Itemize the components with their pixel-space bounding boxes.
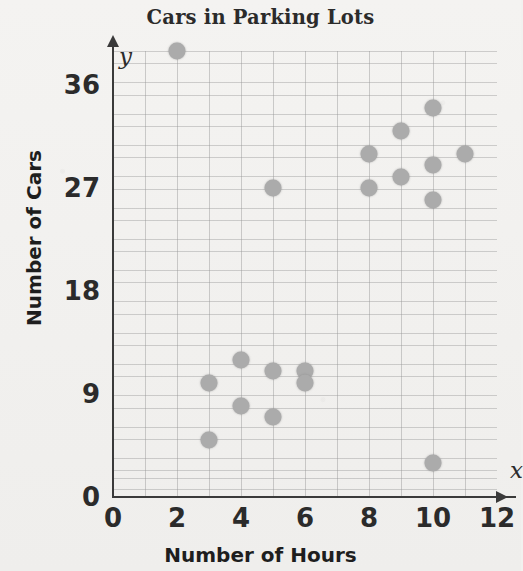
data-point bbox=[201, 374, 218, 391]
data-point bbox=[425, 100, 442, 117]
grid-lines bbox=[113, 51, 497, 497]
y-axis-tick-labels: 09182736 bbox=[0, 51, 100, 497]
x-axis-variable-label: x bbox=[510, 457, 523, 483]
x-tick-label-2: 2 bbox=[168, 503, 186, 533]
data-point bbox=[361, 145, 378, 162]
x-axis-tick-labels: 024681012 bbox=[113, 503, 497, 543]
y-tick-label-27: 27 bbox=[64, 173, 100, 203]
plot-area: y x bbox=[113, 51, 497, 497]
data-point bbox=[393, 168, 410, 185]
x-axis-arrow-icon bbox=[496, 491, 508, 503]
data-point bbox=[233, 397, 250, 414]
y-axis-line bbox=[112, 45, 114, 498]
x-tick-label-12: 12 bbox=[479, 503, 515, 533]
data-point bbox=[425, 157, 442, 174]
data-point bbox=[265, 180, 282, 197]
y-tick-label-18: 18 bbox=[64, 276, 100, 306]
data-point bbox=[169, 43, 186, 60]
data-point bbox=[425, 454, 442, 471]
x-tick-label-10: 10 bbox=[415, 503, 451, 533]
data-point bbox=[361, 180, 378, 197]
y-axis-variable-label: y bbox=[119, 43, 132, 69]
data-point bbox=[233, 351, 250, 368]
data-point bbox=[393, 123, 410, 140]
chart-title: Cars in Parking Lots bbox=[0, 6, 521, 29]
data-point bbox=[201, 431, 218, 448]
x-axis-line bbox=[112, 496, 516, 498]
data-point bbox=[425, 191, 442, 208]
y-tick-label-0: 0 bbox=[82, 482, 100, 512]
data-point bbox=[265, 363, 282, 380]
x-axis-title: Number of Hours bbox=[0, 543, 521, 567]
x-tick-label-6: 6 bbox=[296, 503, 314, 533]
data-point bbox=[297, 374, 314, 391]
y-tick-label-9: 9 bbox=[82, 379, 100, 409]
x-tick-label-4: 4 bbox=[232, 503, 250, 533]
x-tick-label-0: 0 bbox=[104, 503, 122, 533]
data-point bbox=[457, 145, 474, 162]
y-axis-arrow-icon bbox=[107, 35, 119, 47]
x-tick-label-8: 8 bbox=[360, 503, 378, 533]
y-tick-label-36: 36 bbox=[64, 70, 100, 100]
data-point bbox=[265, 408, 282, 425]
